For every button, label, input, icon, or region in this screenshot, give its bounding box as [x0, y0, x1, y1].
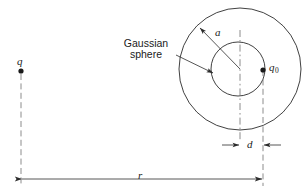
charge-q-dot — [18, 68, 23, 73]
radius-a-label: a — [215, 27, 221, 39]
charge-q0-label: q0 — [269, 62, 279, 75]
physics-figure: Gaussian sphere a q q0 d r — [0, 0, 306, 195]
gaussian-sphere-leader — [176, 55, 213, 73]
gaussian-sphere-label: Gaussian sphere — [117, 38, 175, 60]
distance-r-label: r — [138, 170, 142, 182]
charge-q0-label-base: q — [269, 61, 275, 73]
charge-q0-label-subscript: 0 — [275, 66, 279, 75]
charge-q-label: q — [17, 56, 23, 68]
inner-gaussian-sphere-circle — [211, 42, 265, 96]
gaussian-sphere-label-line2: sphere — [117, 49, 175, 60]
offset-d-label: d — [247, 139, 253, 151]
diagram-canvas — [0, 0, 306, 195]
charge-q0-dot — [260, 67, 265, 72]
